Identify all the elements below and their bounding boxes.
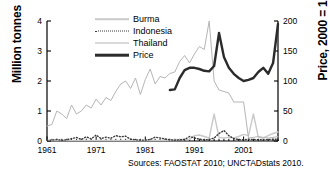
x-tick-label: 1981 (128, 145, 162, 155)
series-line-burma (47, 114, 278, 140)
y-tick-label-right: 100 (283, 76, 301, 86)
y-tick-label-left: 2 (28, 76, 42, 86)
legend-label-indonesia: Indonesia (133, 26, 172, 37)
legend-item-burma: Burma (95, 13, 172, 25)
legend-label-burma: Burma (133, 14, 160, 25)
legend-swatch-indonesia (95, 26, 129, 37)
x-tick-label: 2001 (227, 145, 261, 155)
y-tick-label-right: 200 (283, 16, 301, 26)
y-tick-label-left: 1 (28, 106, 42, 116)
source-note: Sources: FAOSTAT 2010; UNCTADstats 2010. (128, 158, 304, 168)
x-tick-label: 1971 (79, 145, 113, 155)
y-tick-label-right: 0 (283, 136, 301, 146)
legend-swatch-thailand (95, 38, 129, 49)
y-tick-label-right: 50 (283, 106, 301, 116)
chart-legend: BurmaIndonesiaThailandPrice (95, 13, 172, 61)
legend-swatch-burma (95, 14, 129, 25)
legend-label-thailand: Thailand (133, 38, 168, 49)
legend-item-price: Price (95, 49, 172, 61)
x-tick-label: 1961 (30, 145, 64, 155)
y-tick-label-left: 0 (28, 136, 42, 146)
y-tick-label-left: 3 (28, 46, 42, 56)
x-tick-label: 1991 (177, 145, 211, 155)
legend-item-thailand: Thailand (95, 37, 172, 49)
y-tick-label-left: 4 (28, 16, 42, 26)
y-tick-label-right: 150 (283, 46, 301, 56)
legend-line-burma (95, 18, 129, 20)
legend-label-price: Price (133, 50, 154, 61)
legend-item-indonesia: Indonesia (95, 25, 172, 37)
legend-swatch-price (95, 50, 129, 61)
legend-line-price (95, 54, 129, 57)
legend-line-thailand (95, 43, 129, 44)
legend-line-indonesia (95, 31, 129, 32)
